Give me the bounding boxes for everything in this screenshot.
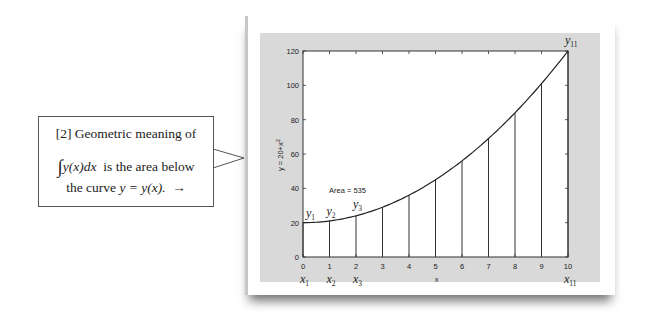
- x-tick-label: 1: [327, 262, 331, 271]
- y-tick-label: 0: [295, 253, 299, 262]
- x-tick-label: 10: [564, 262, 572, 271]
- x-tick-label: 7: [486, 262, 490, 271]
- x-tick-label: 5: [433, 262, 437, 271]
- y11-label: y11: [564, 33, 578, 49]
- x-tick-label: 6: [460, 262, 464, 271]
- x-axis-label: x: [435, 275, 439, 284]
- x-tick-label: 4: [407, 262, 411, 271]
- x3-label: x3: [352, 272, 362, 288]
- x2-label: x2: [326, 272, 336, 288]
- x1-label: x1: [299, 272, 309, 288]
- x-tick-label: 2: [354, 262, 358, 271]
- y-tick-label: 120: [286, 47, 299, 56]
- y-tick-label: 20: [291, 219, 299, 228]
- x-tick-label: 0: [301, 262, 305, 271]
- x11-label: x11: [563, 272, 577, 288]
- y-tick-label: 80: [291, 116, 299, 125]
- area-chart: 012345678910020406080100120Area = 535xy …: [0, 0, 646, 334]
- y-tick-label: 100: [286, 81, 299, 90]
- y-tick-label: 60: [291, 150, 299, 159]
- y-axis-label: y = 20+x2: [275, 138, 285, 171]
- y-tick-label: 40: [291, 184, 299, 193]
- x-tick-label: 8: [513, 262, 517, 271]
- x-tick-label: 9: [539, 262, 543, 271]
- x-tick-label: 3: [380, 262, 384, 271]
- area-annotation: Area = 535: [329, 186, 366, 195]
